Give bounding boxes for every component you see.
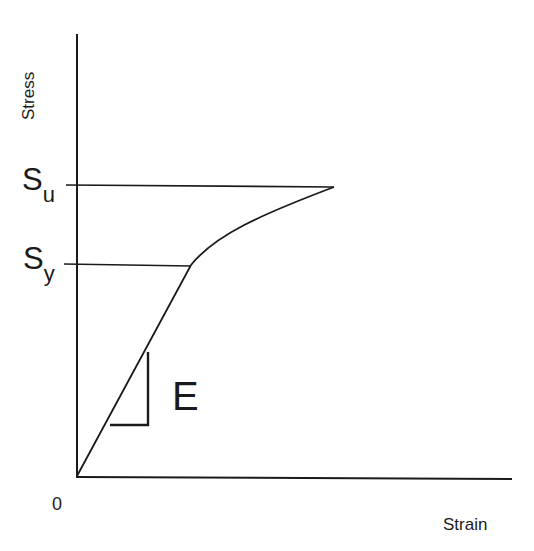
ultimate-strength-symbol: S	[22, 162, 43, 197]
ultimate-strength-line	[66, 185, 334, 187]
origin-label: 0	[52, 495, 62, 513]
x-axis-label: Strain	[443, 516, 487, 533]
yield-strength-symbol: S	[23, 241, 44, 276]
yield-strength-line	[64, 264, 191, 266]
ultimate-strength-subscript: u	[43, 182, 55, 207]
diagram-canvas	[0, 0, 534, 551]
yield-strength-label: Sy	[23, 243, 55, 274]
x-axis	[76, 477, 512, 479]
modulus-label: E	[172, 376, 199, 416]
ultimate-strength-label: Su	[22, 164, 55, 195]
stress-strain-diagram: Stress Su Sy E 0 Strain	[0, 0, 534, 551]
yield-strength-subscript: y	[44, 261, 55, 286]
stress-strain-curve	[77, 187, 334, 476]
modulus-slope-triangle	[110, 352, 148, 425]
y-axis-label: Stress	[20, 72, 37, 120]
